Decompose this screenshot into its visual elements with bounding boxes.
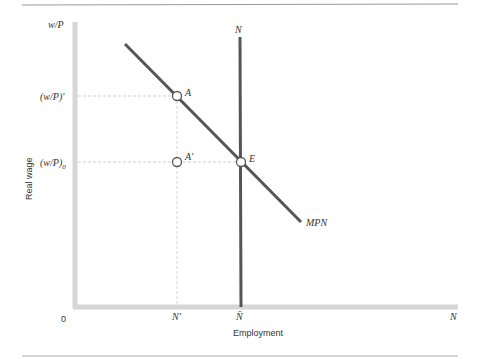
y-tick-wp-zero: (w/P)0: [40, 157, 66, 171]
point-a-prime-marker: [173, 158, 182, 167]
mpn-line: [125, 44, 301, 222]
x-tick-n-bar: N̄: [235, 311, 244, 322]
y-tick-wp-prime: (w/P)': [40, 91, 65, 103]
point-a-label: A: [184, 87, 192, 98]
x-axis-title: Employment: [233, 328, 284, 338]
mpn-curve-label: MPN: [305, 217, 328, 228]
top-rule: [22, 4, 458, 5]
point-e-label: E: [248, 153, 255, 164]
labor-market-diagram: w/P (w/P)' (w/P)0 Real wage 0 N' N̄ N Em…: [0, 0, 482, 359]
point-a-marker: [173, 92, 182, 101]
y-axis-title: Real wage: [24, 157, 34, 200]
x-tick-n-prime: N': [171, 311, 182, 322]
x-axis-right-label: N: [449, 311, 458, 322]
point-e-marker: [237, 158, 246, 167]
supply-curve-label: N: [234, 24, 243, 35]
y-axis-top-label: w/P: [48, 19, 64, 30]
origin-label: 0: [61, 314, 66, 324]
point-a-prime-label: A': [184, 151, 194, 162]
labor-supply-line: [240, 37, 241, 307]
